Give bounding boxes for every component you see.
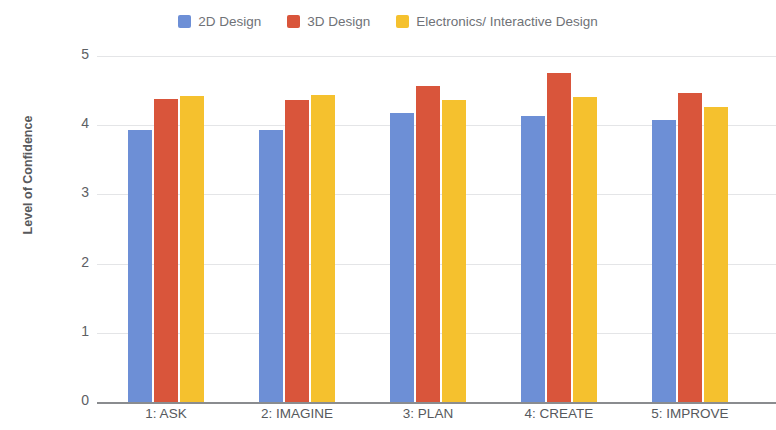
gridline xyxy=(97,56,776,57)
bar[interactable] xyxy=(652,120,676,402)
x-tick-label: 2: IMAGINE xyxy=(237,406,357,421)
bar[interactable] xyxy=(390,113,414,402)
bar[interactable] xyxy=(285,100,309,402)
bar[interactable] xyxy=(547,73,571,402)
y-tick-label: 0 xyxy=(55,392,89,408)
x-tick-label: 1: ASK xyxy=(106,406,226,421)
y-tick-label: 2 xyxy=(55,254,89,270)
bar[interactable] xyxy=(704,107,728,402)
bar[interactable] xyxy=(573,97,597,402)
bar[interactable] xyxy=(180,96,204,402)
y-tick-label: 5 xyxy=(55,46,89,62)
bar[interactable] xyxy=(416,86,440,402)
x-tick-label: 5: IMPROVE xyxy=(630,406,750,421)
y-tick-label: 3 xyxy=(55,184,89,200)
bar[interactable] xyxy=(311,95,335,402)
bar[interactable] xyxy=(521,116,545,402)
y-tick-label: 1 xyxy=(55,323,89,339)
y-tick-label: 4 xyxy=(55,115,89,131)
x-axis-line xyxy=(97,402,776,404)
plot-area: 012345 1: ASK2: IMAGINE3: PLAN4: CREATE5… xyxy=(0,0,776,430)
bar-chart: 2D Design3D DesignElectronics/ Interacti… xyxy=(0,0,776,430)
bar[interactable] xyxy=(128,130,152,402)
bar[interactable] xyxy=(259,130,283,402)
bar[interactable] xyxy=(678,93,702,402)
bar[interactable] xyxy=(154,99,178,402)
bar[interactable] xyxy=(442,100,466,402)
x-tick-label: 3: PLAN xyxy=(368,406,488,421)
x-tick-label: 4: CREATE xyxy=(499,406,619,421)
